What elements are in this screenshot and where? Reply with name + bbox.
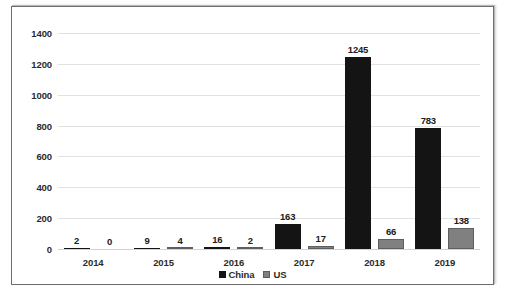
y-axis-tick-label: 1400	[31, 28, 52, 39]
bar-rect	[275, 224, 301, 249]
bar-rect	[237, 247, 263, 249]
bar-china-2017[interactable]: 163	[275, 224, 301, 249]
bar-group-2014: 202014	[58, 33, 128, 249]
bar-value-label: 163	[280, 211, 295, 222]
bar-group-2019: 7831382019	[410, 33, 480, 249]
bar-us-2016[interactable]: 2	[237, 247, 263, 249]
bar-group-2015: 942015	[128, 33, 198, 249]
bar-group-2017: 163172017	[269, 33, 339, 249]
bar-rect	[415, 128, 441, 249]
bar-value-label: 138	[454, 215, 469, 226]
bar-value-label: 4	[177, 235, 182, 246]
bar-rect	[308, 246, 334, 249]
bar-value-label: 2	[248, 235, 253, 246]
y-axis-tick-label: 0	[47, 244, 52, 255]
bar-value-label: 0	[107, 236, 112, 247]
bar-group-2016: 1622016	[199, 33, 269, 249]
x-axis-tick-label-2016: 2016	[199, 257, 269, 268]
bar-rect	[448, 228, 474, 249]
legend-item-china[interactable]: China	[219, 269, 255, 280]
legend-swatch-icon	[263, 271, 270, 278]
x-axis-tick-label-2018: 2018	[339, 257, 409, 268]
bar-rect	[378, 239, 404, 249]
bar-china-2019[interactable]: 783	[415, 128, 441, 249]
bar-china-2015[interactable]: 9	[134, 248, 160, 249]
bar-us-2015[interactable]: 4	[167, 247, 193, 249]
legend-item-us[interactable]: US	[263, 269, 286, 280]
chart-frame: 0200400600800100012001400 20201494201516…	[11, 6, 494, 285]
x-axis-tick-label-2014: 2014	[58, 257, 128, 268]
y-axis-tick-label: 600	[36, 151, 52, 162]
bar-value-label: 2	[74, 235, 79, 246]
y-axis-tick-label: 200	[36, 213, 52, 224]
y-axis-tick-label: 1000	[31, 89, 52, 100]
bar-value-label: 17	[316, 233, 326, 244]
bar-rect	[167, 247, 193, 249]
plot-area: 0200400600800100012001400 20201494201516…	[58, 33, 480, 249]
bar-value-label: 783	[421, 115, 436, 126]
gridline-0	[58, 249, 480, 250]
bar-group-2018: 1245662018	[339, 33, 409, 249]
y-axis-tick-label: 800	[36, 120, 52, 131]
x-axis-tick-label-2017: 2017	[269, 257, 339, 268]
y-axis-tick-label: 400	[36, 182, 52, 193]
bar-us-2019[interactable]: 138	[448, 228, 474, 249]
y-axis-tick-label: 1200	[31, 58, 52, 69]
legend-label: China	[229, 269, 255, 280]
bar-china-2014[interactable]: 2	[64, 248, 90, 249]
bar-us-2017[interactable]: 17	[308, 246, 334, 249]
bar-value-label: 1245	[348, 44, 368, 55]
bar-rect	[345, 57, 371, 249]
bar-rect	[64, 248, 90, 249]
bar-china-2018[interactable]: 1245	[345, 57, 371, 249]
legend-label: US	[273, 269, 286, 280]
bar-groups: 2020149420151622016163172017124566201878…	[58, 33, 480, 249]
bar-rect	[204, 247, 230, 249]
bar-value-label: 9	[144, 235, 149, 246]
bar-china-2016[interactable]: 16	[204, 247, 230, 249]
bar-us-2018[interactable]: 66	[378, 239, 404, 249]
x-axis-tick-label-2015: 2015	[128, 257, 198, 268]
legend-swatch-icon	[219, 271, 226, 278]
bar-value-label: 16	[212, 234, 222, 245]
bar-value-label: 66	[386, 226, 396, 237]
bar-rect	[134, 248, 160, 249]
x-axis-tick-label-2019: 2019	[410, 257, 480, 268]
chart-legend: ChinaUS	[12, 269, 493, 280]
